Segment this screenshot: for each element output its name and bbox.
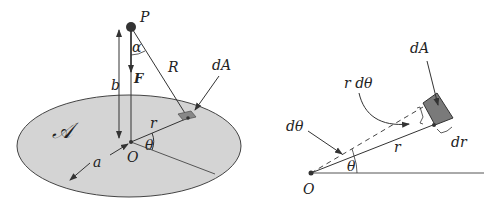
label-O: O xyxy=(127,149,139,165)
label-alpha: α xyxy=(132,39,142,55)
label-O: O xyxy=(303,181,315,197)
label-F: F xyxy=(133,71,144,86)
dashed-ray xyxy=(311,107,423,173)
area-element xyxy=(423,93,453,125)
label-theta: θ xyxy=(347,158,356,174)
label-P: P xyxy=(139,9,150,25)
origin-O xyxy=(129,140,133,144)
arc-brace xyxy=(417,107,423,124)
label-dA: dA xyxy=(212,57,231,73)
dtheta-pointer-arrow xyxy=(308,131,342,154)
figure-canvas: P α R dA b F 𝒜 r θ O a xyxy=(0,0,498,204)
disk-region xyxy=(17,95,241,197)
origin-O xyxy=(309,171,314,176)
label-dA: dA xyxy=(410,40,429,56)
radius-r-line xyxy=(311,125,433,173)
r-dtheta-pointer xyxy=(359,93,409,124)
right-figure: dA r dθ dθ r dr θ O xyxy=(286,40,484,197)
label-r: r xyxy=(394,139,402,155)
label-a: a xyxy=(93,154,101,170)
label-r-dtheta: r dθ xyxy=(344,75,373,91)
label-b: b xyxy=(111,77,120,93)
label-dr: dr xyxy=(451,134,468,150)
label-dtheta: dθ xyxy=(286,118,304,134)
label-theta: θ xyxy=(145,137,154,153)
dr-brace xyxy=(437,127,452,133)
point-P xyxy=(126,22,136,32)
dA-pointer-arrow xyxy=(195,76,219,110)
left-figure: P α R dA b F 𝒜 r θ O a xyxy=(17,9,241,197)
label-R: R xyxy=(167,59,179,75)
